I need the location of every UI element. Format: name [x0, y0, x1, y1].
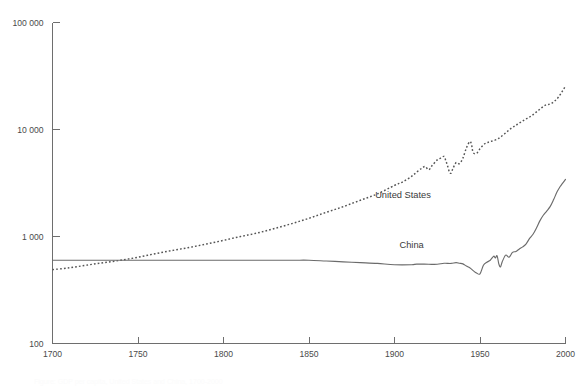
x-tick-label: 1950	[470, 349, 489, 359]
x-tick-label: 1850	[299, 349, 318, 359]
y-tick-label: 10 000	[17, 125, 44, 135]
y-tick-label: 100 000	[12, 18, 43, 28]
series-annotation-united-states: United States	[375, 190, 431, 200]
series-annotation-china: China	[399, 240, 424, 250]
chart-series	[53, 86, 566, 274]
chart-series-labels: United StatesChina	[375, 190, 431, 250]
x-tick-label: 1750	[128, 349, 147, 359]
series-path-china	[53, 179, 566, 274]
x-tick-label: 1900	[385, 349, 404, 359]
axis-lines	[53, 23, 566, 344]
chart-ticks: 1001 00010 000100 0001700175018001850190…	[12, 18, 575, 359]
x-tick-label: 1700	[43, 349, 62, 359]
chart-axes	[53, 23, 566, 344]
figure-caption: Figure: GDP per capita, United States an…	[34, 377, 294, 386]
y-tick-label: 100	[29, 339, 44, 349]
y-tick-label: 1 000	[22, 232, 44, 242]
line-chart: 1001 00010 000100 0001700175018001850190…	[0, 0, 586, 388]
chart-container: 1001 00010 000100 0001700175018001850190…	[0, 0, 586, 388]
x-tick-label: 1800	[214, 349, 233, 359]
series-path-united-states	[53, 86, 566, 270]
x-tick-label: 2000	[556, 349, 575, 359]
